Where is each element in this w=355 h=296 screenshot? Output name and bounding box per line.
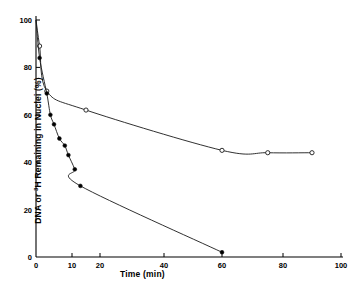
data-point-open bbox=[310, 151, 314, 155]
x-tick-label: 100 bbox=[335, 261, 348, 270]
x-tick-label: 0 bbox=[34, 261, 38, 270]
y-tick-label: 60 bbox=[24, 111, 32, 120]
data-point-open bbox=[266, 151, 270, 155]
y-axis-title: DNA or 3H Remaining in Nuclei (%) bbox=[33, 50, 44, 250]
tick-labels: 01020406080100020406080100 bbox=[19, 16, 347, 270]
x-tick-label: 20 bbox=[96, 261, 104, 270]
data-point-filled bbox=[49, 113, 53, 117]
data-series bbox=[36, 20, 314, 254]
data-point-filled bbox=[79, 184, 83, 188]
y-tick-label: 80 bbox=[24, 63, 32, 72]
x-axis-title: Time (min) bbox=[120, 269, 240, 279]
y-axis-title-suffix: H Remaining in Nuclei (%) bbox=[33, 77, 43, 187]
y-axis-title-prefix: DNA or bbox=[33, 191, 43, 224]
data-point-filled bbox=[220, 250, 224, 254]
data-point-filled bbox=[58, 137, 62, 141]
y-axis-title-superscript: 3 bbox=[33, 187, 39, 191]
axes bbox=[36, 16, 343, 257]
data-point-filled bbox=[67, 153, 71, 157]
y-tick-label: 0 bbox=[28, 253, 32, 262]
x-tick-label: 10 bbox=[68, 261, 76, 270]
figure-panel: 01020406080100020406080100 Time (min) DN… bbox=[0, 0, 355, 296]
y-tick-label: 20 bbox=[24, 206, 32, 215]
data-point-open bbox=[220, 148, 224, 152]
series-line bbox=[36, 20, 222, 252]
series-line bbox=[36, 20, 312, 154]
data-point-filled bbox=[73, 167, 77, 171]
data-point-filled bbox=[63, 144, 67, 148]
y-tick-label: 100 bbox=[19, 16, 32, 25]
x-tick-label: 80 bbox=[279, 261, 287, 270]
tick-marks bbox=[36, 20, 341, 257]
data-point-filled bbox=[45, 92, 49, 96]
chart-canvas: 01020406080100020406080100 bbox=[0, 0, 355, 296]
y-tick-label: 40 bbox=[24, 158, 32, 167]
data-point-open bbox=[84, 108, 88, 112]
data-point-filled bbox=[52, 122, 56, 126]
